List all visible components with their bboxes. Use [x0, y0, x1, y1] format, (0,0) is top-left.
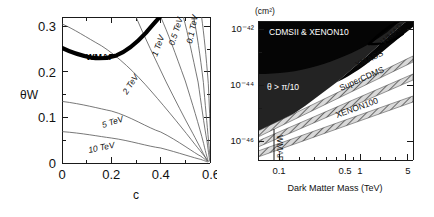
label-cdmsii-xenon10: CDMSII & XENON10: [269, 27, 349, 37]
left-ytick-2: 0.2: [38, 65, 56, 80]
label-05tev: 0.5 TeV: [166, 15, 185, 47]
right-ytick-0: 10⁻⁴²: [231, 23, 254, 34]
right-yaxis-unit: (cm²): [255, 6, 275, 16]
left-yaxis-title: θW: [20, 88, 39, 102]
right-xtick-3: 5: [405, 165, 410, 176]
left-xaxis-title: c: [133, 188, 139, 202]
left-panel-plot: 0 0.2 0.4 0.6 0 0.1 0.2 0.3 c θW: [0, 0, 217, 217]
label-10tev: 10 TeV: [87, 139, 116, 155]
label-theta-gt-pi10: θ > π/10: [267, 82, 299, 92]
label-1tev: 1 TeV: [149, 32, 166, 57]
left-xtick-3: 0.6: [202, 167, 217, 182]
right-panel: 10⁻⁴² 10⁻⁴⁴ 10⁻⁴⁶ (cm²) 0.1 0.5 1 5 Dark…: [217, 0, 434, 217]
right-xaxis-title: Dark Matter Mass (TeV): [287, 183, 382, 193]
right-x-ticks: [279, 154, 407, 160]
left-panel: 0 0.2 0.4 0.6 0 0.1 0.2 0.3 c θW: [0, 0, 217, 217]
right-ytick-2: 10⁻⁴⁶: [230, 135, 254, 146]
label-2tev: 2 TeV: [120, 71, 142, 97]
left-ytick-1: 0.1: [38, 110, 56, 125]
label-5tev: 5 TeV: [101, 113, 126, 130]
left-ytick-3: 0.3: [38, 19, 56, 34]
figure-root: 0 0.2 0.4 0.6 0 0.1 0.2 0.3 c θW: [0, 0, 434, 217]
label-wmap-vline: WMAP: [275, 135, 285, 162]
left-xtick-1: 0.2: [102, 167, 120, 182]
right-xtick-2: 1: [357, 165, 362, 176]
right-ytick-1: 10⁻⁴⁴: [230, 79, 254, 90]
curve-5tev: [62, 101, 208, 161]
left-xtick-0: 0: [58, 167, 65, 182]
left-xtick-2: 0.4: [152, 167, 170, 182]
right-panel-plot: 10⁻⁴² 10⁻⁴⁴ 10⁻⁴⁶ (cm²) 0.1 0.5 1 5 Dark…: [217, 0, 434, 217]
left-ytick-0: 0: [49, 156, 56, 171]
label-wmap-left: WMAP: [86, 52, 115, 62]
right-xtick-1: 0.5: [338, 165, 351, 176]
right-xtick-0: 0.1: [272, 165, 285, 176]
